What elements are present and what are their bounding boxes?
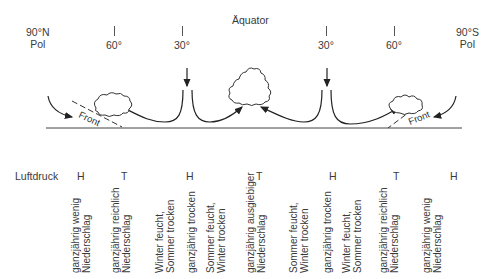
pressure-value: H	[329, 170, 337, 182]
pressure-value: T	[121, 170, 127, 182]
westerly-arrow-icon	[331, 90, 398, 124]
climate-zone-label: ganzjährig trocken	[186, 191, 197, 273]
climate-zone-label: ganzjährig ausgiebigerNiederschlag	[245, 172, 267, 273]
pressure-value: H	[450, 170, 458, 182]
polar-arrow-icon	[48, 96, 72, 117]
climate-zone-label: ganzjährig reichlichNiederschlag	[378, 187, 400, 273]
climate-zone-label: ganzjährig trocken	[322, 191, 333, 273]
cloud-icon	[94, 93, 131, 117]
pressure-label: Luftdruck	[15, 170, 58, 182]
polar-arrow-icon	[434, 96, 456, 117]
cloud-icon	[389, 95, 423, 115]
climate-zone-label: ganzjährig reichlichNiederschlag	[110, 187, 132, 273]
climate-zone-label: Sommer feucht,Winter trocken	[288, 202, 310, 273]
pressure-value: H	[77, 170, 85, 182]
climate-zone-label: Winter feucht,Sommer trocken	[341, 200, 363, 273]
climate-zone-label: ganzjährig wenigNiederschlag	[421, 198, 443, 273]
pressure-value: H	[186, 170, 194, 182]
climate-zone-label: ganzjährig wenigNiederschlag	[70, 198, 92, 273]
climate-zone-label: Sommer feucht,Winter trocken	[205, 202, 227, 273]
cloud-icon	[229, 68, 271, 106]
climate-zone-label: Winter feucht,Sommer trocken	[154, 200, 176, 273]
pressure-value: T	[393, 170, 399, 182]
